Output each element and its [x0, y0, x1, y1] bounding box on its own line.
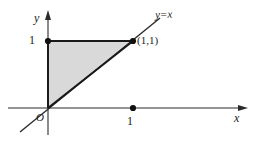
x-axis-arrowhead	[238, 105, 248, 111]
x-axis-label: x	[234, 112, 239, 124]
figure-canvas: y x O 1 1 (1,1) y=x	[0, 0, 260, 146]
point-coordinate-label-1-1: (1,1)	[137, 35, 158, 46]
y-axis-tick-label-1: 1	[29, 34, 35, 46]
point-marker-x-tick-1	[130, 105, 136, 111]
y-axis-arrowhead	[45, 10, 51, 20]
y-axis-label: y	[34, 12, 39, 24]
line-equation-label: y=x	[155, 9, 173, 21]
point-marker-0-1	[45, 38, 51, 44]
x-axis-tick-label-1: 1	[127, 115, 133, 127]
point-marker-1-1	[130, 38, 136, 44]
origin-label: O	[36, 112, 44, 123]
